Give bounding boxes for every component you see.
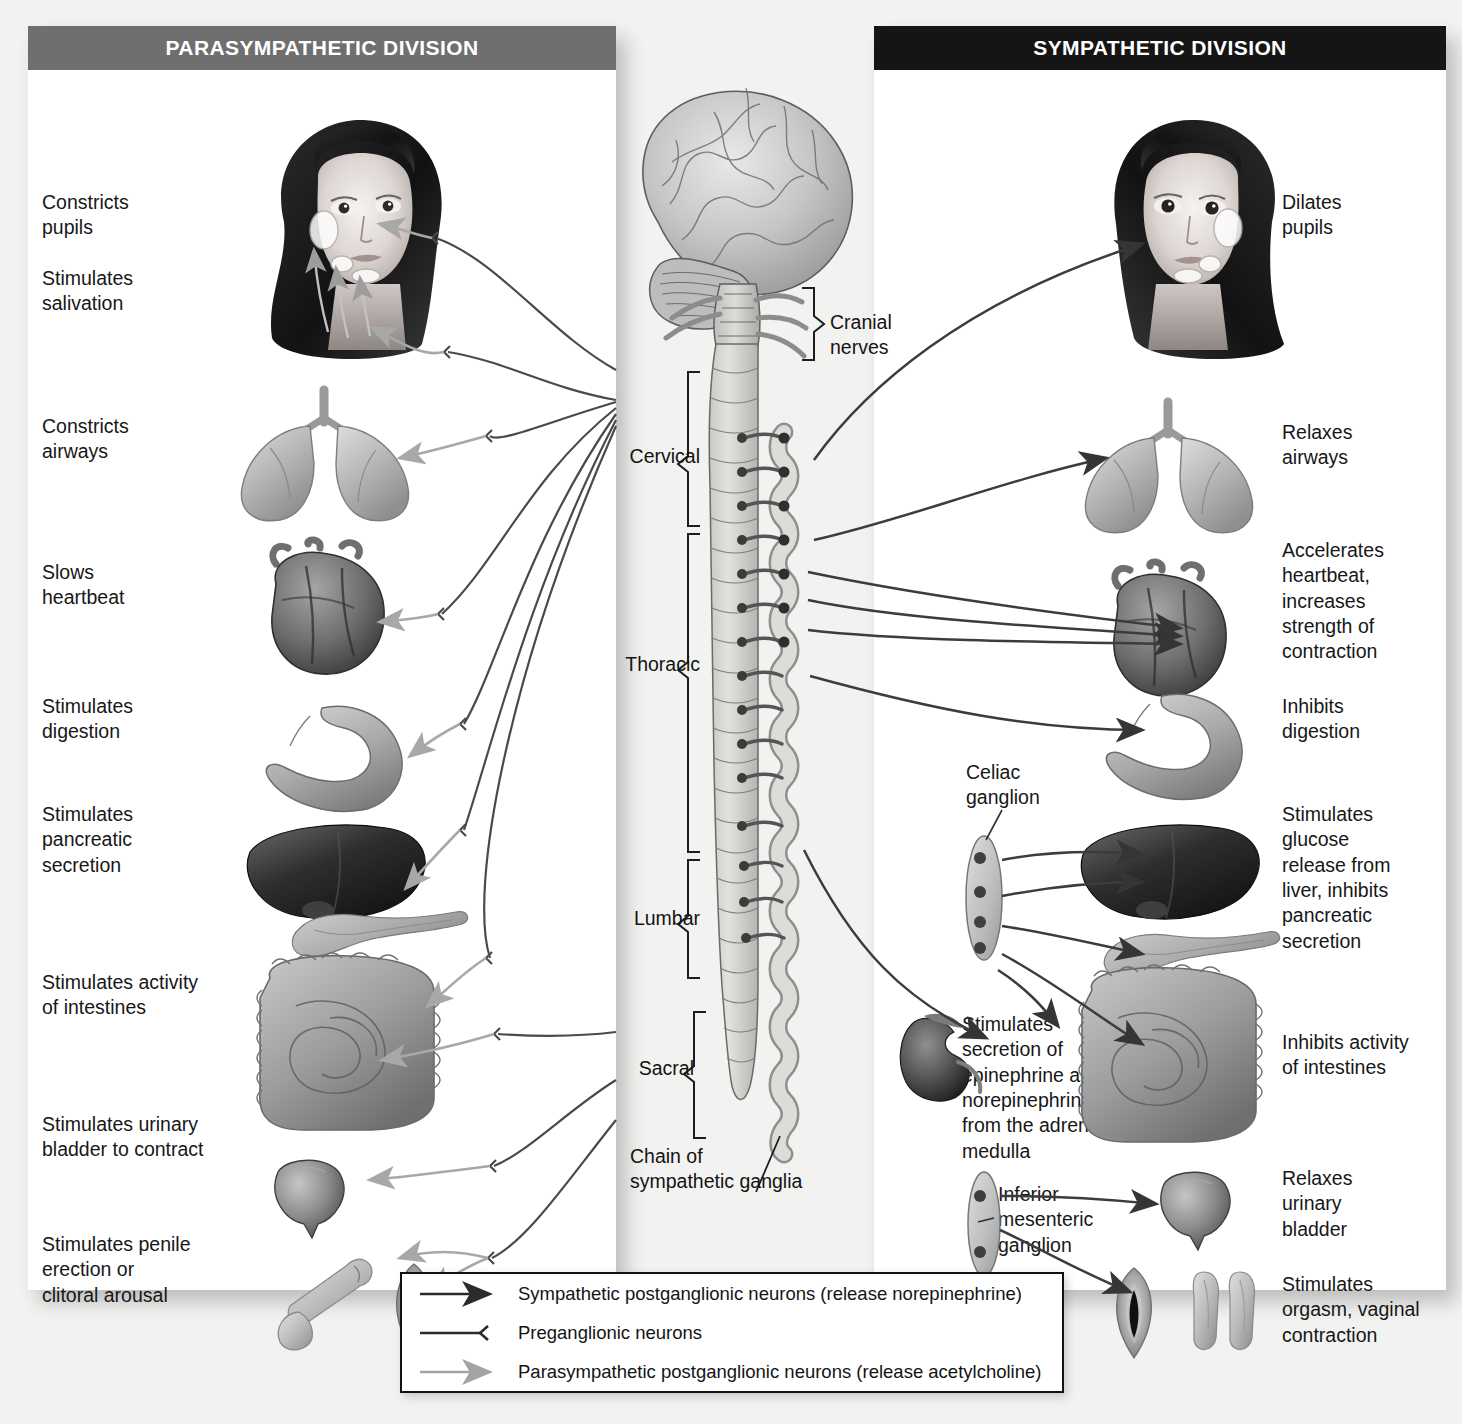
label-symp-liver: Stimulates glucose release from liver, i…: [1282, 802, 1447, 954]
organ-testes-penis-sympathetic: [1182, 1266, 1272, 1366]
central-nervous-system-column: Cranial nerves Cervical Thoracic Lumbar …: [616, 26, 874, 1316]
legend-item-preganglionic: Preganglionic neurons: [402, 1313, 1062, 1352]
preganglionic-fork-icon: [416, 1323, 508, 1343]
organ-bladder-sympathetic: [1146, 1162, 1246, 1254]
legend-label-sympathetic-postganglionic: Sympathetic postganglionic neurons (rele…: [518, 1283, 1022, 1305]
ganglion-inferior-mesenteric: [960, 1170, 1008, 1280]
organ-stomach-parasympathetic: [256, 702, 431, 822]
label-para-pupils: Constricts pupils: [42, 190, 222, 241]
organ-penis-parasympathetic: [268, 1250, 388, 1355]
label-para-salivation: Stimulates salivation: [42, 266, 222, 317]
ganglion-celiac: [958, 834, 1010, 964]
organ-head-female-sympathetic: [1062, 112, 1332, 372]
label-celiac-ganglion: Celiac ganglion: [966, 760, 1096, 811]
label-sacral: Sacral: [608, 1056, 694, 1081]
label-symp-airways: Relaxes airways: [1282, 420, 1447, 471]
parasympathetic-body: Constricts pupils Stimulates salivation …: [28, 70, 616, 1290]
label-inferior-mesenteric: Inferior mesenteric ganglion: [998, 1182, 1148, 1258]
sympathetic-body: Dilates pupils Relaxes airways Accelerat…: [874, 70, 1446, 1290]
legend-label-parasympathetic-postganglionic: Parasympathetic postganglionic neurons (…: [518, 1361, 1041, 1383]
label-para-digestion: Stimulates digestion: [42, 694, 222, 745]
label-para-pancreas: Stimulates pancreatic secretion: [42, 802, 222, 878]
organ-head-female-parasympathetic: [224, 112, 494, 372]
label-cervical: Cervical: [610, 444, 700, 469]
organ-stomach-sympathetic: [1096, 690, 1271, 810]
organ-intestines-parasympathetic: [234, 948, 464, 1143]
label-symp-heart: Accelerates heartbeat, increases strengt…: [1282, 538, 1447, 665]
label-para-airways: Constricts airways: [42, 414, 222, 465]
legend-item-parasympathetic-postganglionic: Parasympathetic postganglionic neurons (…: [402, 1352, 1062, 1391]
label-cranial-nerves: Cranial nerves: [830, 310, 940, 361]
label-para-heart: Slows heartbeat: [42, 560, 222, 611]
legend: Sympathetic postganglionic neurons (rele…: [400, 1272, 1064, 1393]
organ-adrenal-kidney: [884, 1010, 994, 1120]
sympathetic-title: SYMPATHETIC DIVISION: [874, 26, 1446, 70]
label-lumbar: Lumbar: [602, 906, 700, 931]
organ-vulva-sympathetic: [1098, 1264, 1170, 1364]
organ-heart-sympathetic: [1088, 560, 1248, 705]
label-thoracic: Thoracic: [602, 652, 700, 677]
label-para-genitals: Stimulates penile erection or clitoral a…: [42, 1232, 252, 1308]
sympathetic-panel: SYMPATHETIC DIVISION Dilates pupils Rela…: [874, 26, 1446, 1290]
label-symp-intestines: Inhibits activity of intestines: [1282, 1030, 1447, 1081]
organ-lungs-sympathetic: [1070, 400, 1270, 540]
parasympathetic-panel: PARASYMPATHETIC DIVISION Constricts pupi…: [28, 26, 616, 1290]
organ-lungs-parasympathetic: [226, 388, 426, 528]
organ-heart-parasympathetic: [246, 538, 406, 683]
dark-arrow-icon: [416, 1284, 508, 1304]
label-chain-of-sympathetic-ganglia: Chain of sympathetic ganglia: [630, 1144, 860, 1195]
bracket-cranial-nerves: [802, 288, 824, 360]
bracket-thoracic: [678, 534, 700, 852]
label-symp-digestion: Inhibits digestion: [1282, 694, 1447, 745]
label-symp-bladder: Relaxes urinary bladder: [1282, 1166, 1447, 1242]
parasympathetic-title: PARASYMPATHETIC DIVISION: [28, 26, 616, 70]
organ-intestines-sympathetic: [1056, 960, 1286, 1155]
legend-label-preganglionic: Preganglionic neurons: [518, 1322, 702, 1344]
label-para-intestines: Stimulates activity of intestines: [42, 970, 252, 1021]
label-symp-genitals: Stimulates orgasm, vaginal contraction: [1282, 1272, 1452, 1348]
organ-bladder-parasympathetic: [260, 1150, 360, 1242]
organ-liver-sympathetic: [1074, 818, 1274, 928]
legend-item-sympathetic-postganglionic: Sympathetic postganglionic neurons (rele…: [402, 1274, 1062, 1313]
light-arrow-icon: [416, 1362, 508, 1382]
